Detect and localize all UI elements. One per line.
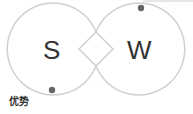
center-diamond [79, 32, 113, 66]
bottom-left-dot [49, 87, 55, 93]
caption-label: 优势 [9, 97, 29, 107]
top-right-dot [138, 5, 144, 11]
strength-letter: S [43, 37, 60, 63]
weakness-letter: W [127, 37, 152, 63]
